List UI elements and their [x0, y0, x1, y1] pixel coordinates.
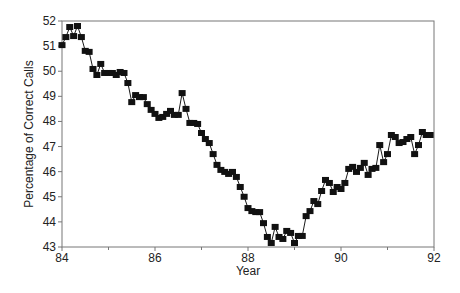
y-axis-title: Percentage of Correct Calls	[22, 60, 36, 207]
data-point-marker	[194, 121, 201, 127]
data-point-marker	[237, 184, 244, 190]
data-point-marker	[287, 230, 294, 236]
x-tick-label: 86	[148, 251, 162, 265]
y-tick-label: 47	[43, 140, 57, 154]
data-point-marker	[179, 90, 186, 96]
data-point-marker	[376, 142, 383, 148]
data-series	[59, 23, 434, 246]
data-point-marker	[121, 70, 128, 76]
data-point-marker	[372, 165, 379, 171]
data-point-marker	[407, 134, 414, 140]
data-point-marker	[326, 180, 333, 186]
y-tick-label: 46	[43, 165, 57, 179]
data-point-marker	[198, 130, 205, 136]
data-point-marker	[338, 186, 345, 192]
y-tick-label: 51	[43, 39, 57, 53]
data-point-marker	[59, 42, 66, 48]
data-point-marker	[74, 23, 81, 29]
data-point-marker	[264, 234, 271, 240]
line-chart: 43444546474849505152 8486889092 Year Per…	[0, 0, 460, 293]
data-point-marker	[256, 209, 263, 215]
data-point-marker	[279, 236, 286, 242]
x-tick-label: 88	[241, 251, 255, 265]
data-point-marker	[272, 224, 279, 230]
data-point-marker	[210, 151, 217, 157]
data-point-marker	[97, 61, 104, 67]
data-point-marker	[415, 142, 422, 148]
data-point-marker	[384, 151, 391, 157]
data-point-marker	[241, 194, 248, 200]
data-point-marker	[268, 240, 275, 246]
data-point-marker	[183, 106, 190, 112]
data-point-marker	[124, 80, 131, 86]
y-tick-label: 45	[43, 190, 57, 204]
data-point-marker	[233, 174, 240, 180]
y-tick-label: 48	[43, 114, 57, 128]
data-point-marker	[314, 201, 321, 207]
y-tick-label: 52	[43, 14, 57, 28]
x-tick-label: 90	[334, 251, 348, 265]
plot-border	[62, 21, 434, 247]
y-tick-label: 50	[43, 64, 57, 78]
y-tick-label: 43	[43, 240, 57, 254]
data-point-marker	[175, 112, 182, 118]
data-point-marker	[299, 233, 306, 239]
data-point-marker	[93, 72, 100, 78]
data-point-marker	[62, 34, 69, 40]
data-point-marker	[307, 208, 314, 214]
data-point-marker	[206, 140, 213, 146]
data-point-marker	[361, 160, 368, 166]
data-point-marker	[66, 24, 73, 30]
data-point-marker	[86, 49, 93, 55]
data-point-marker	[365, 172, 372, 178]
data-point-marker	[260, 220, 267, 226]
x-tick-label: 84	[55, 251, 69, 265]
data-point-marker	[411, 151, 418, 157]
data-point-marker	[341, 180, 348, 186]
y-tick-label: 44	[43, 215, 57, 229]
data-point-marker	[78, 34, 85, 40]
data-point-marker	[128, 99, 135, 105]
data-point-marker	[291, 240, 298, 246]
x-axis-title: Year	[236, 264, 260, 278]
data-point-marker	[318, 188, 325, 194]
y-tick-label: 49	[43, 89, 57, 103]
data-point-marker	[90, 66, 97, 72]
x-axis: 8486889092	[55, 247, 441, 265]
plot-frame	[62, 21, 434, 247]
data-point-marker	[427, 132, 434, 138]
data-point-marker	[140, 94, 147, 100]
x-tick-label: 92	[427, 251, 441, 265]
data-point-marker	[70, 33, 77, 39]
data-point-marker	[380, 159, 387, 165]
data-point-marker	[144, 101, 151, 107]
data-point-marker	[392, 134, 399, 140]
y-axis: 43444546474849505152	[43, 14, 62, 254]
